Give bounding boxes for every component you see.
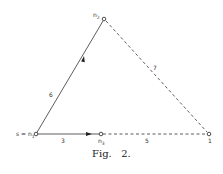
node-label-t: 1	[208, 137, 212, 144]
edge-n1-n2	[36, 21, 103, 134]
edge-n2-t	[106, 21, 207, 132]
node-label-n2: n2	[93, 11, 100, 20]
node-label-n1: s = n1	[16, 130, 35, 139]
node-n1	[34, 132, 38, 136]
edge-weight-3: 3	[61, 137, 65, 144]
node-n2	[102, 17, 106, 21]
edge-weight-5: 5	[145, 137, 149, 144]
graph-diagram: 6 3 7 5 n2 s = n1 n3 1 Fig. 2.	[0, 0, 223, 174]
arrow-icon	[86, 132, 92, 136]
edge-weight-7: 7	[153, 64, 157, 71]
edge-weight-6: 6	[49, 91, 53, 98]
node-n3	[99, 132, 103, 136]
figure-caption: Fig. 2.	[92, 148, 131, 159]
node-label-n3: n3	[98, 137, 105, 146]
node-t	[207, 132, 211, 136]
